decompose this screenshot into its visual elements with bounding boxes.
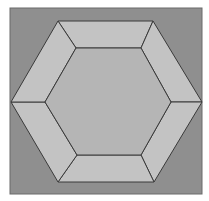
hexagon-ring-figure	[0, 0, 209, 201]
